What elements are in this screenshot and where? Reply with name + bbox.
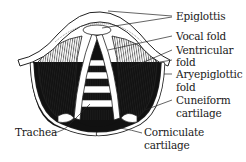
label-corniculate-line2: cartilage <box>144 140 190 151</box>
label-cuneiform-line2: cartilage <box>176 108 222 119</box>
label-corniculate-line1: Corniculate <box>144 127 204 138</box>
label-epiglottis: Epiglottis <box>176 11 225 22</box>
label-ventricular-fold-line2: fold <box>176 57 196 68</box>
label-vocal-fold: Vocal fold <box>176 31 226 42</box>
label-cuneiform-line1: Cuneiform <box>176 95 231 106</box>
label-aryepiglottic-fold-line2: fold <box>176 82 196 93</box>
label-trachea: Trachea <box>15 127 57 138</box>
label-aryepiglottic-fold-line1: Aryepiglottic <box>176 69 242 80</box>
epiglottis-tubercle <box>83 25 111 35</box>
label-ventricular-fold-line1: Ventricular <box>176 45 233 56</box>
